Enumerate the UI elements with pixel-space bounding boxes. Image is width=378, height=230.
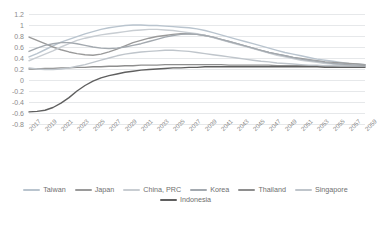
x-tick-label: 2047 [268, 118, 282, 132]
legend-item-thailand[interactable]: Thailand [238, 186, 286, 194]
legend-label-indonesia: Indonesia [180, 196, 211, 204]
x-tick-label: 2043 [236, 118, 250, 132]
legend-swatch-singapore [295, 189, 312, 191]
legend-item-japan[interactable]: Japan [75, 186, 115, 194]
x-tick-label: 2035 [172, 118, 186, 132]
legend-item-singapore[interactable]: Singapore [295, 186, 348, 194]
x-tick-label: 2059 [364, 118, 378, 132]
x-tick-label: 2053 [316, 118, 330, 132]
x-tick-label: 2021 [60, 118, 74, 132]
legend-item-indonesia[interactable]: Indonesia [160, 196, 211, 204]
legend-label-thailand: Thailand [258, 186, 286, 194]
legend-swatch-thailand [238, 189, 255, 191]
x-tick-label: 2049 [284, 118, 298, 132]
x-tick-label: 2023 [76, 118, 90, 132]
legend-swatch-china-prc [123, 189, 140, 191]
legend-swatch-korea [190, 189, 207, 191]
x-tick-label: 2045 [252, 118, 266, 132]
x-tick-label: 2025 [92, 118, 106, 132]
x-tick-label: 2019 [44, 118, 58, 132]
x-tick-label: 2037 [188, 118, 202, 132]
legend-swatch-indonesia [160, 199, 177, 201]
legend-label-korea: Korea [210, 186, 229, 194]
x-tick-label: 2051 [300, 118, 314, 132]
legend-swatch-japan [75, 189, 92, 191]
legend-swatch-taiwan [23, 189, 40, 191]
x-tick-label: 2029 [124, 118, 138, 132]
chart-legend: TaiwanJapanChina, PRCKoreaThailandSingap… [0, 186, 371, 204]
x-tick-label: 2039 [204, 118, 218, 132]
legend-item-taiwan[interactable]: Taiwan [23, 186, 65, 194]
legend-label-taiwan: Taiwan [43, 186, 65, 194]
x-tick-label: 2057 [348, 118, 362, 132]
legend-item-china-prc[interactable]: China, PRC [123, 186, 181, 194]
legend-label-japan: Japan [95, 186, 115, 194]
legend-item-korea[interactable]: Korea [190, 186, 229, 194]
x-tick-label: 2033 [156, 118, 170, 132]
x-tick-label: 2031 [140, 118, 154, 132]
x-tick-label: 2017 [28, 118, 42, 132]
x-tick-label: 2027 [108, 118, 122, 132]
legend-label-china-prc: China, PRC [143, 186, 181, 194]
x-tick-label: 2041 [220, 118, 234, 132]
x-tick-label: 2055 [332, 118, 346, 132]
legend-label-singapore: Singapore [315, 186, 348, 194]
